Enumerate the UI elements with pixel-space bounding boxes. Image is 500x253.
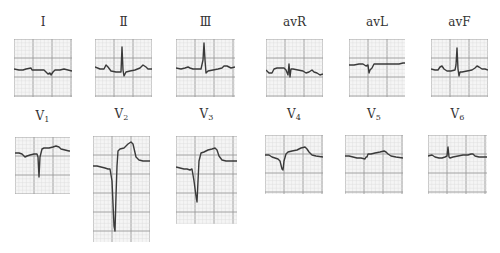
ecg-lead-iii: Ⅲ [176, 15, 235, 97]
lead-label-sub: 4 [296, 113, 301, 122]
ecg-trace [431, 48, 488, 76]
ecg-lead-i: Ⅰ [14, 15, 72, 97]
ecg-lead-v3: V3 [176, 107, 237, 224]
lead-label: Ⅰ [14, 15, 72, 29]
ecg-trace [266, 64, 323, 77]
lead-label-main: V [115, 107, 124, 121]
lead-label-sub: 5 [376, 113, 381, 122]
ecg-lead-v1: V1 [15, 109, 70, 194]
lead-label: avF [431, 15, 488, 29]
ecg-trace [15, 146, 70, 177]
ecg-grid-strip [431, 39, 488, 97]
ecg-lead-avl: avL [349, 15, 405, 97]
lead-label-sub: 2 [123, 113, 128, 122]
lead-label: avR [266, 15, 323, 29]
ecg-trace [349, 63, 405, 73]
ecg-lead-v6: V6 [428, 107, 487, 194]
lead-label: V1 [15, 109, 70, 127]
ecg-lead-v2: V2 [93, 107, 150, 242]
lead-label-sub: 3 [208, 113, 213, 122]
lead-label: avL [349, 15, 405, 29]
ecg-grid-strip [428, 135, 487, 194]
ecg-trace [95, 47, 152, 76]
ecg-grid-strip [265, 135, 323, 194]
lead-label-sub: 6 [459, 113, 464, 122]
lead-label: Ⅱ [95, 15, 152, 29]
lead-label: Ⅲ [176, 15, 235, 29]
lead-label: V5 [345, 107, 403, 125]
lead-label-main: V [200, 107, 209, 121]
lead-label-main: V [36, 109, 45, 123]
ecg-grid-strip [176, 39, 235, 97]
ecg-lead-v4: V4 [265, 107, 323, 194]
ecg-trace [428, 147, 487, 158]
ecg-grid-strip [15, 137, 70, 194]
lead-label: V2 [93, 107, 150, 125]
ecg-grid-strip [349, 39, 405, 97]
ecg-lead-v5: V5 [345, 107, 403, 194]
lead-label: V3 [176, 107, 237, 125]
lead-label-main: V [287, 107, 296, 121]
ecg-grid-strip [14, 39, 72, 97]
lead-label: V4 [265, 107, 323, 125]
ecg-grid-strip [345, 135, 403, 194]
ecg-lead-ii: Ⅱ [95, 15, 152, 97]
lead-label-sub: 1 [44, 115, 49, 124]
ecg-lead-avf: avF [431, 15, 488, 97]
lead-label-main: V [367, 107, 376, 121]
ecg-grid-strip [93, 136, 150, 242]
ecg-grid-strip [95, 39, 152, 97]
lead-label: V6 [428, 107, 487, 125]
ecg-grid-strip [266, 39, 323, 97]
lead-label-main: V [451, 107, 460, 121]
ecg-lead-avr: avR [266, 15, 323, 97]
ecg-grid-strip [176, 136, 237, 224]
